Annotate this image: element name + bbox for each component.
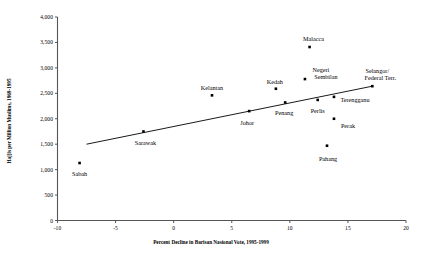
axis-lines bbox=[58, 17, 407, 221]
data-point-label: Kelantan bbox=[201, 84, 223, 91]
data-point-marker bbox=[142, 130, 145, 133]
data-point-label: Johor bbox=[240, 119, 254, 126]
x-tick-label: 5 bbox=[230, 225, 233, 231]
data-point-label: Perlis bbox=[311, 107, 325, 114]
x-tick-label: 15 bbox=[345, 225, 351, 231]
data-point-marker bbox=[304, 78, 307, 81]
y-tick-label: 1,500 bbox=[28, 141, 53, 147]
data-point-label: Kedah bbox=[267, 78, 283, 85]
data-point-marker bbox=[211, 94, 214, 97]
data-point-label: Sarawak bbox=[135, 139, 156, 146]
chart-plot-area bbox=[0, 0, 423, 255]
data-point-label: Penang bbox=[275, 109, 293, 116]
y-tick-label: 500 bbox=[28, 192, 53, 198]
x-tick-label: 20 bbox=[403, 225, 409, 231]
y-tick-label: 3,500 bbox=[28, 39, 53, 45]
x-tick-label: -10 bbox=[54, 225, 62, 231]
data-point-label: Malacca bbox=[303, 35, 324, 42]
data-point-marker bbox=[333, 96, 336, 99]
data-point-label: Sembilan bbox=[314, 73, 337, 80]
trend-line bbox=[87, 86, 373, 144]
y-axis-title: Hajjis per Million Muslims, 1969-1995 bbox=[6, 78, 12, 163]
y-tick-label: 2,500 bbox=[28, 90, 53, 96]
data-point-marker bbox=[333, 117, 336, 120]
data-point-marker bbox=[308, 46, 311, 49]
x-tick-label: 10 bbox=[287, 225, 293, 231]
x-tick-label: -5 bbox=[113, 225, 118, 231]
data-point-label: Terengganu bbox=[340, 96, 369, 103]
data-point-markers bbox=[78, 46, 373, 165]
x-axis-title: Percent Decline in Barisan Nasional Vote… bbox=[153, 239, 269, 245]
data-point-label: Sabah bbox=[72, 170, 87, 177]
y-tick-label: 3,000 bbox=[28, 65, 53, 71]
data-point-marker bbox=[316, 99, 319, 102]
y-tick-label: 4,000 bbox=[28, 14, 53, 20]
y-tick-label: 0 bbox=[28, 218, 53, 224]
data-point-label: Federal Terr. bbox=[365, 74, 396, 81]
data-point-marker bbox=[78, 162, 81, 165]
data-point-marker bbox=[248, 110, 251, 113]
scatter-chart: 05001,0001,5002,0002,5003,0003,5004,000 … bbox=[0, 0, 423, 255]
data-point-label: Pahang bbox=[319, 155, 337, 162]
data-point-marker bbox=[275, 87, 278, 90]
data-point-marker bbox=[371, 85, 374, 88]
x-tick-label: 0 bbox=[172, 225, 175, 231]
data-point-marker bbox=[326, 144, 329, 147]
data-point-label: Perak bbox=[341, 122, 355, 129]
data-point-marker bbox=[284, 101, 287, 104]
y-tick-label: 2,000 bbox=[28, 116, 53, 122]
y-tick-label: 1,000 bbox=[28, 167, 53, 173]
